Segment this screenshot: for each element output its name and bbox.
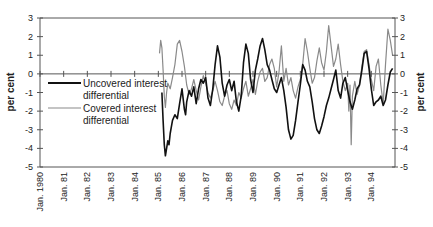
interest-differential-chart: 3210-1-2-3-4-5 3210-1-2-3-4-5 Jan. 1980J… [0, 0, 433, 227]
legend: Uncovered interest differential Covered … [48, 78, 167, 126]
y-axis-left: 3210-1-2-3-4-5 [25, 13, 43, 172]
y-tick-label-left: -2 [25, 106, 33, 116]
series-layer [160, 26, 393, 156]
y-tick-label-left: -1 [25, 88, 33, 98]
x-tick-label: Jan. 88 [224, 172, 234, 202]
y-tick-label-right: 3 [400, 13, 405, 23]
x-tick-label: Jan. 89 [248, 172, 258, 202]
legend-item-uncovered: Uncovered interest differential [48, 78, 167, 101]
x-tick-label: Jan. 93 [343, 172, 353, 202]
x-tick-label: Jan. 90 [272, 172, 282, 202]
y-tick-label-right: -2 [400, 106, 408, 116]
y-tick-label-left: 3 [28, 13, 33, 23]
legend-item-covered: Covered interest differential [48, 103, 157, 126]
x-tick-label: Jan. 82 [82, 172, 92, 202]
y-axis-right: 3210-1-2-3-4-5 [392, 13, 408, 172]
y-tick-label-left: 2 [28, 32, 33, 42]
y-tick-label-left: -5 [25, 162, 33, 172]
y-tick-label-right: -1 [400, 88, 408, 98]
y-tick-label-right: -5 [400, 162, 408, 172]
y-tick-label-right: 1 [400, 50, 405, 60]
x-tick-label: Jan. 83 [106, 172, 116, 202]
y-tick-label-right: 0 [400, 69, 405, 79]
x-tick-label: Jan. 87 [201, 172, 211, 202]
x-tick-label: Jan. 85 [153, 172, 163, 202]
x-tick-label: Jan. 81 [59, 172, 69, 202]
y-tick-label-left: 1 [28, 50, 33, 60]
legend-label-covered-line2: differential [83, 115, 129, 126]
y-tick-label-left: -4 [25, 143, 33, 153]
y-tick-label-left: 0 [28, 69, 33, 79]
legend-label-uncovered-line1: Uncovered interest [83, 78, 167, 89]
y-axis-right-title: per cent [415, 72, 426, 112]
y-axis-left-title: per cent [5, 72, 16, 112]
x-tick-label: Jan. 94 [366, 172, 376, 202]
y-tick-label-right: 2 [400, 32, 405, 42]
series-covered-line [160, 26, 393, 145]
x-tick-label: Jan. 86 [177, 172, 187, 202]
y-tick-label-left: -3 [25, 125, 33, 135]
legend-label-covered-line1: Covered interest [83, 103, 157, 114]
x-tick-label: Jan. 91 [295, 172, 305, 202]
x-tick-label: Jan. 92 [319, 172, 329, 202]
series-uncovered-line [162, 39, 393, 156]
x-tick-label: Jan. 84 [130, 172, 140, 202]
legend-label-uncovered-line2: differential [83, 90, 129, 101]
x-tick-label: Jan. 1980 [35, 172, 45, 212]
y-tick-label-right: -3 [400, 125, 408, 135]
y-tick-label-right: -4 [400, 143, 408, 153]
